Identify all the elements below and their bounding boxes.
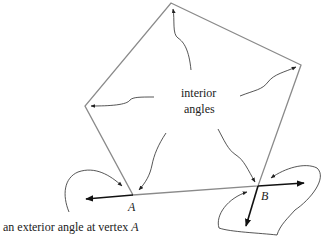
exterior-angle-caption: an exterior angle at vertex A: [3, 220, 139, 234]
extension-ray-at-a: [86, 195, 133, 199]
interior-arrow-top: [173, 9, 191, 70]
interior-arrow-left: [91, 97, 154, 106]
polygon-angles-diagram: interior angles A B an exterior angle at…: [0, 0, 335, 250]
extension-ray-at-b-down: [246, 186, 258, 226]
vertex-label-a: A: [127, 200, 136, 214]
interior-arrow-b: [218, 129, 255, 182]
caption-vertex-a: A: [130, 220, 139, 234]
vertex-label-b: B: [261, 189, 269, 203]
exterior-loop-b: [218, 166, 320, 235]
extension-ray-at-b-right: [258, 183, 304, 186]
interior-arrow-right: [240, 67, 296, 96]
exterior-arrow-a: [65, 170, 122, 212]
interior-angles-label-line1: interior: [181, 86, 216, 100]
interior-angles-label-line2: angles: [184, 102, 215, 116]
interior-arrow-a: [139, 133, 166, 190]
